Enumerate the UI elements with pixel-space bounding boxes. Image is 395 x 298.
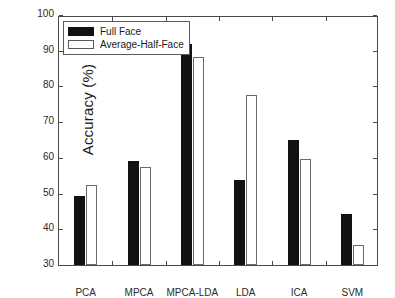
x-tick-mark bbox=[219, 17, 220, 21]
y-tick-mark bbox=[373, 15, 377, 16]
y-tick-mark bbox=[59, 194, 63, 195]
y-tick-mark bbox=[59, 229, 63, 230]
y-tick-label: 40 bbox=[43, 222, 54, 233]
y-tick-label: 50 bbox=[43, 187, 54, 198]
y-tick-mark bbox=[373, 158, 377, 159]
y-tick-mark bbox=[59, 15, 63, 16]
x-tick-label-mpca-lda: MPCA-LDA bbox=[166, 287, 218, 298]
bar-mpca-average-half-face bbox=[140, 167, 151, 265]
legend-item: Full Face bbox=[68, 25, 184, 38]
y-tick-label: 100 bbox=[37, 8, 54, 19]
y-tick-mark bbox=[59, 265, 63, 266]
bar-lda-average-half-face bbox=[246, 95, 257, 265]
y-tick-label: 80 bbox=[43, 79, 54, 90]
legend-item: Average-Half-Face bbox=[68, 38, 184, 51]
legend-label: Full Face bbox=[100, 26, 141, 37]
bar-mpca-lda-average-half-face bbox=[193, 57, 204, 265]
x-tick-mark bbox=[326, 261, 327, 265]
bar-pca-average-half-face bbox=[86, 185, 97, 265]
y-tick-label: 70 bbox=[43, 115, 54, 126]
bar-lda-full-face bbox=[234, 180, 245, 265]
y-tick-mark bbox=[373, 265, 377, 266]
bar-ica-average-half-face bbox=[300, 159, 311, 265]
y-tick-mark bbox=[373, 194, 377, 195]
x-tick-label-svm: SVM bbox=[341, 287, 363, 298]
legend-swatch-icon bbox=[68, 40, 94, 49]
y-tick-label: 60 bbox=[43, 151, 54, 162]
x-tick-label-mpca: MPCA bbox=[125, 287, 154, 298]
x-tick-mark bbox=[219, 261, 220, 265]
legend-label: Average-Half-Face bbox=[100, 39, 184, 50]
x-tick-label-lda: LDA bbox=[236, 287, 255, 298]
plot-area: Accuracy (%) 30405060708090100 PCAMPCAMP… bbox=[58, 16, 378, 266]
x-tick-label-ica: ICA bbox=[291, 287, 308, 298]
bar-svm-full-face bbox=[341, 214, 352, 265]
y-tick-mark bbox=[373, 86, 377, 87]
y-tick-mark bbox=[373, 122, 377, 123]
x-tick-mark bbox=[272, 261, 273, 265]
x-tick-mark bbox=[272, 17, 273, 21]
bar-svm-average-half-face bbox=[353, 245, 364, 265]
y-tick-label: 90 bbox=[43, 44, 54, 55]
chart-legend: Full FaceAverage-Half-Face bbox=[63, 21, 190, 55]
x-tick-label-pca: PCA bbox=[75, 287, 96, 298]
x-tick-mark bbox=[166, 261, 167, 265]
y-tick-mark bbox=[373, 51, 377, 52]
legend-swatch-icon bbox=[68, 27, 94, 36]
x-tick-mark bbox=[326, 17, 327, 21]
bar-pca-full-face bbox=[74, 196, 85, 265]
bar-ica-full-face bbox=[288, 140, 299, 265]
bar-mpca-lda-full-face bbox=[181, 44, 192, 265]
y-tick-mark bbox=[59, 158, 63, 159]
bar-mpca-full-face bbox=[128, 161, 139, 265]
y-tick-mark bbox=[373, 229, 377, 230]
y-tick-mark bbox=[59, 86, 63, 87]
y-tick-mark bbox=[59, 122, 63, 123]
y-tick-label: 30 bbox=[43, 258, 54, 269]
x-tick-mark bbox=[112, 261, 113, 265]
